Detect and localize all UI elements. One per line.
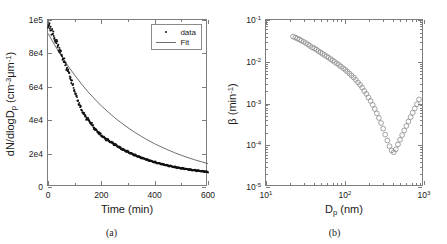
y-tick-label-a: 0 — [38, 182, 43, 192]
y-tick-label-b: 10-3 — [246, 99, 261, 109]
y-tick-label-a: 6e4 — [29, 82, 43, 92]
x-tick-label-a: 600 — [201, 190, 215, 200]
y-tick-label-a: 2e4 — [29, 149, 43, 159]
y-tick-label-a: 1e5 — [29, 15, 43, 25]
x-tick-label-b: 103 — [418, 190, 431, 200]
y-tick-label-b: 10-2 — [246, 57, 261, 67]
caption-b: (b) — [223, 227, 446, 238]
x-tick-label-a: 200 — [94, 190, 108, 200]
x-axis-title-a: Time (min) — [101, 203, 153, 215]
x-axis-title-b: Dp (nm) — [325, 203, 363, 217]
y-tick-label-a: 4e4 — [29, 115, 43, 125]
data-markers-b — [266, 20, 424, 187]
y-tick-label-a: 8e4 — [29, 48, 43, 58]
y-tick-label-b: 10-1 — [246, 15, 261, 25]
x-tick-label-b: 102 — [339, 190, 352, 200]
legend-a: data Fit — [151, 24, 202, 50]
figure-container: 02e44e46e48e41e5 0200400600 data Fit — [0, 0, 447, 244]
y-axis-title-a: dN/dlogDp (cm-3μm-1) — [4, 51, 18, 155]
y-tick-label-b: 10-4 — [246, 140, 261, 150]
caption-a: (a) — [0, 227, 223, 238]
legend-label-fit: Fit — [177, 38, 189, 47]
x-tick-label-b: 101 — [260, 190, 273, 200]
panel-b: 10-510-410-310-210-1 101102103 Dp (nm) β… — [223, 0, 446, 244]
plot-area-b: 10-510-410-310-210-1 101102103 Dp (nm) β… — [265, 19, 423, 186]
legend-item-data: data — [155, 27, 196, 37]
x-tick-label-a: 400 — [148, 190, 162, 200]
dot-marker-icon — [155, 31, 177, 33]
legend-label-data: data — [177, 28, 196, 37]
x-tick-label-a: 0 — [46, 190, 51, 200]
legend-item-fit: Fit — [155, 37, 196, 47]
y-axis-title-b: β (min-1) — [226, 83, 238, 124]
panel-a: 02e44e46e48e41e5 0200400600 data Fit — [0, 0, 223, 244]
plot-area-a: 02e44e46e48e41e5 0200400600 data Fit — [47, 19, 207, 186]
line-marker-icon — [155, 42, 177, 43]
